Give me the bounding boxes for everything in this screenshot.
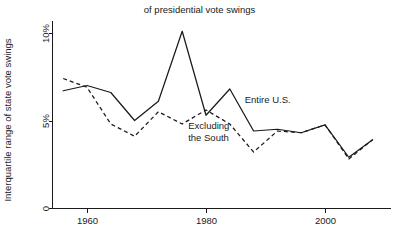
chart-title: of presidential vote swings (144, 4, 256, 15)
x-tick-label: 1960 (77, 215, 98, 226)
annotation-excluding-south-line1: Excluding (188, 120, 229, 131)
y-axis-label: Interquartile range of state vote swings (2, 38, 13, 201)
annotation-entire-us: Entire U.S. (245, 94, 291, 105)
chart-figure: of presidential vote swings Interquartil… (0, 0, 399, 227)
x-tick-label: 1980 (196, 215, 217, 226)
series-excluding-south-line (63, 79, 372, 160)
y-tick-label: 10% (40, 23, 51, 43)
y-tick-label: 0 (40, 206, 51, 211)
line-chart: of presidential vote swings Interquartil… (0, 0, 399, 227)
y-tick-label: 5% (40, 114, 51, 128)
y-axis-ticks: 05%10% (40, 23, 53, 211)
annotation-excluding-south-line2: the South (188, 132, 229, 143)
x-axis-ticks: 196019802000 (77, 209, 336, 226)
x-tick-label: 2000 (315, 215, 336, 226)
